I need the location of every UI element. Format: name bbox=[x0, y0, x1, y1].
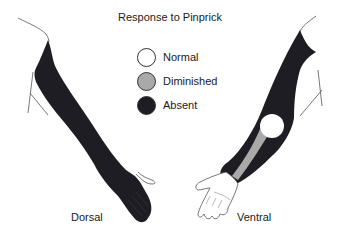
legend-item-diminished: Diminished bbox=[137, 72, 257, 94]
dorsal-label: Dorsal bbox=[71, 211, 103, 223]
legend-item-absent: Absent bbox=[137, 96, 257, 118]
ventral-label: Ventral bbox=[237, 211, 271, 223]
legend-label: Absent bbox=[163, 99, 197, 111]
diminished-swatch-icon bbox=[137, 72, 156, 91]
absent-swatch-icon bbox=[137, 96, 156, 115]
legend-item-normal: Normal bbox=[137, 48, 257, 70]
normal-swatch-icon bbox=[137, 48, 156, 67]
legend-label: Normal bbox=[163, 51, 198, 63]
legend-label: Diminished bbox=[163, 75, 217, 87]
arm-diagram bbox=[0, 0, 340, 238]
dorsal-arm bbox=[18, 18, 155, 222]
